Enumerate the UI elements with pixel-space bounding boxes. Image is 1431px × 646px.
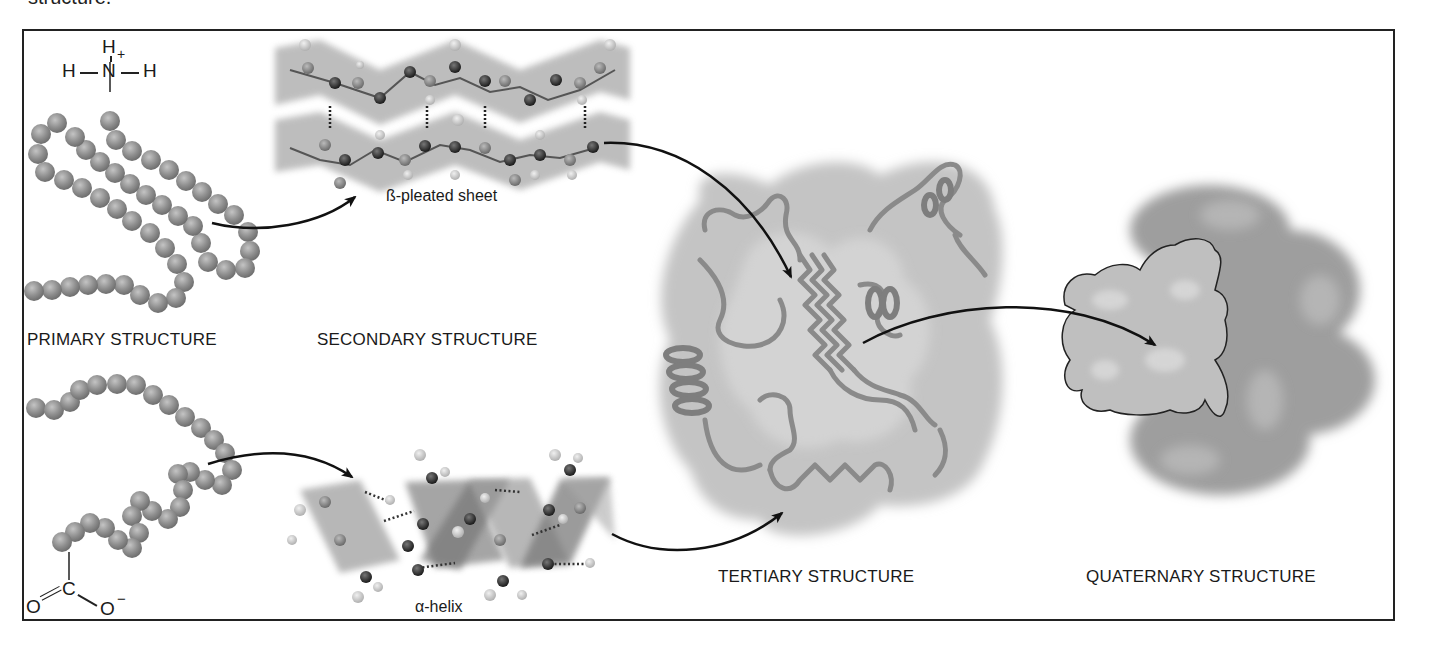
n-terminus-top-h: H [102,36,116,58]
diagram-artwork [0,0,1431,646]
c-terminus-carbon: C [62,578,76,600]
n-terminus-nitrogen: N [102,60,116,82]
c-terminus-charge: − [117,590,126,607]
secondary-structure-label: SECONDARY STRUCTURE [317,330,537,350]
bond-line [110,56,112,62]
n-terminus-charge: + [117,46,125,62]
primary-structure-chain [24,62,260,313]
bond-line [121,72,139,74]
c-terminus-left-oxygen: O [26,596,41,618]
alpha-helix-label: α-helix [415,598,462,616]
primary-structure-label: PRIMARY STRUCTURE [27,330,217,350]
bond-line [80,72,98,74]
beta-pleated-sheet [275,39,630,192]
beta-sheet-label: ß-pleated sheet [386,187,497,205]
n-terminus-left-h: H [62,60,76,82]
highlighted-subunit [1062,239,1228,417]
c-terminus-right-oxygen: O [100,598,115,620]
primary-structure-chain-lower [26,374,242,580]
alpha-helix [287,449,615,603]
quaternary-structure [1062,185,1375,495]
n-terminus-right-h: H [143,60,157,82]
tertiary-structure-label: TERTIARY STRUCTURE [718,567,914,587]
tertiary-structure [660,162,1003,536]
quaternary-structure-label: QUATERNARY STRUCTURE [1086,567,1316,587]
